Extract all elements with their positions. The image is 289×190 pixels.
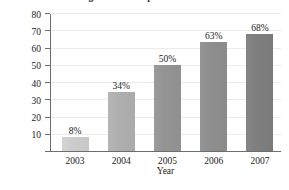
y-tick-label: 50	[32, 61, 42, 71]
y-tick-mark	[45, 134, 50, 135]
gridline	[51, 13, 281, 14]
y-tick-label: 80	[32, 10, 42, 20]
x-tick-label: 2003	[66, 156, 85, 166]
bar-rect	[62, 137, 89, 151]
x-tick-label: 2004	[112, 156, 131, 166]
y-tick-label: 70	[32, 27, 42, 37]
bar: 63%	[200, 26, 227, 151]
bar-rect	[246, 34, 273, 151]
y-tick-label: 60	[32, 44, 42, 54]
chart-title: Percentage of U.S. Cellphones with Camer…	[0, 0, 289, 2]
bar-rect	[108, 92, 135, 151]
bar: 34%	[108, 76, 135, 151]
y-tick-mark	[45, 48, 50, 49]
bar: 50%	[154, 49, 181, 151]
x-tick-label: 2007	[250, 156, 269, 166]
bar: 68%	[246, 18, 273, 151]
y-axis-line	[50, 14, 51, 152]
bar-chart-figure: Percentage of U.S. Cellphones with Camer…	[0, 0, 289, 190]
y-tick-mark	[45, 13, 50, 14]
x-axis-title: Year	[50, 166, 281, 176]
bar: 8%	[62, 121, 89, 151]
x-axis-line	[45, 151, 281, 152]
y-tick-mark	[45, 30, 50, 31]
y-tick-label: 30	[32, 96, 42, 106]
bar-rect	[200, 42, 227, 151]
bar-value-label: 34%	[113, 81, 130, 91]
bar-rect	[154, 65, 181, 151]
y-tick-label: 20	[32, 113, 42, 123]
x-tick-label: 2005	[158, 156, 177, 166]
y-tick-mark	[45, 117, 50, 118]
y-tick-mark	[45, 82, 50, 83]
y-tick-mark	[45, 99, 50, 100]
bar-value-label: 68%	[251, 23, 268, 33]
x-tick-label: 2006	[204, 156, 223, 166]
plot-area: 1020304050607080 8%34%50%63%68% 20032004…	[50, 14, 281, 152]
bar-value-label: 63%	[205, 31, 222, 41]
bar-value-label: 8%	[69, 126, 82, 136]
y-tick-label: 10	[32, 130, 42, 140]
bar-value-label: 50%	[159, 54, 176, 64]
y-tick-mark	[45, 65, 50, 66]
y-tick-label: 40	[32, 79, 42, 89]
